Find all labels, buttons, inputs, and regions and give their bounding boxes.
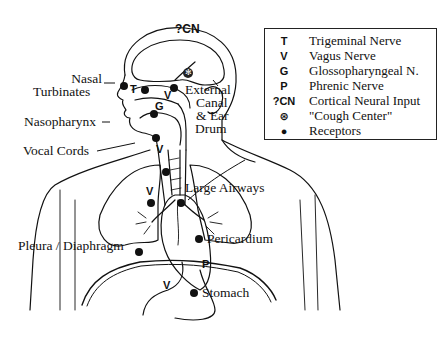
legend-row-cortical: ?CN Cortical Neural Input: [265, 94, 436, 108]
legend-label: Cortical Neural Input: [309, 94, 420, 108]
legend-row-receptors: ● Receptors: [265, 124, 436, 138]
legend-box: T Trigeminal Nerve V Vagus Nerve G Gloss…: [264, 28, 437, 140]
label-pericardium: Pericardium: [207, 232, 273, 246]
label-drum: Drum: [195, 122, 227, 136]
legend-label: Phrenic Nerve: [309, 79, 384, 93]
legend-label: Receptors: [309, 124, 361, 138]
legend-symbol: G: [265, 64, 303, 78]
legend-symbol: P: [265, 79, 303, 93]
legend-symbol: V: [265, 49, 303, 63]
legend-label: "Cough Center": [309, 109, 392, 123]
receptor-nasopharynx: [150, 110, 158, 118]
legend-label: Trigeminal Nerve: [309, 34, 401, 48]
label-nasopharynx: Nasopharynx: [24, 115, 96, 129]
legend-row-glossopharyngeal: G Glossopharyngeal N.: [265, 64, 436, 78]
legend-label: Vagus Nerve: [309, 49, 376, 63]
legend-row-phrenic: P Phrenic Nerve: [265, 79, 436, 93]
receptor-ear: [170, 84, 178, 92]
label-turbinates: Turbinates: [33, 85, 90, 99]
receptor-larynx: [152, 134, 160, 142]
legend-symbol: ?CN: [265, 94, 303, 108]
label-stomach: Stomach: [202, 286, 249, 300]
label-pleura-diaphragm: Pleura / Diaphragm: [18, 239, 124, 253]
label-large-airways: Large Airways: [185, 181, 265, 195]
receptor-nasal-2: [141, 86, 149, 94]
legend-label: Glossopharyngeal N.: [309, 64, 419, 78]
receptor-bronchus-right: [177, 199, 185, 207]
legend-row-vagus: V Vagus Nerve: [265, 49, 436, 63]
receptor-trachea: [162, 168, 170, 176]
receptor-pericardium: [195, 235, 203, 243]
legend-row-cough-center: ⊛ "Cough Center": [265, 109, 436, 123]
cough-center-legend-icon: ⊛: [265, 109, 303, 123]
receptor-stomach: [190, 289, 198, 297]
legend-symbol: T: [265, 34, 303, 48]
legend-row-trigeminal: T Trigeminal Nerve: [265, 34, 436, 48]
label-vocal-cords: Vocal Cords: [23, 144, 89, 158]
receptor-nasal: [120, 82, 128, 90]
receptor-bronchus-left: [147, 199, 155, 207]
receptor-pleura-diaphragm: [135, 248, 143, 256]
receptor-legend-icon: ●: [265, 124, 303, 138]
